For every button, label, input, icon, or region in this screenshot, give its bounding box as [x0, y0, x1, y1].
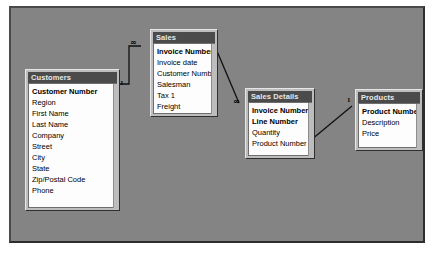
relationship-canvas[interactable]: 1 ∞ 1 ∞ ∞ 1 Customers Customer Number Re… [9, 6, 425, 243]
field-row[interactable]: Customer Number [157, 68, 211, 79]
field-row[interactable]: Product Number [252, 138, 308, 149]
table-fieldlist-sales-details[interactable]: Invoice Number Line Number Quantity Prod… [248, 102, 312, 156]
field-row[interactable]: Line Number [252, 116, 308, 127]
field-row[interactable]: Last Name [32, 119, 113, 130]
cardinality-salesdetails-many: ∞ [233, 98, 240, 106]
scrollbar-sales[interactable] [211, 44, 215, 114]
relationship-line-salesdetails-products [311, 106, 352, 140]
field-row[interactable]: First Name [32, 108, 113, 119]
scrollbar-sales-details[interactable] [308, 103, 312, 156]
table-fieldlist-products[interactable]: Product Number Description Price [358, 103, 420, 148]
table-title-sales-details[interactable]: Sales Details [248, 91, 312, 102]
cardinality-customers-one: 1 [120, 80, 124, 87]
relationships-window: 1 ∞ 1 ∞ ∞ 1 Customers Customer Number Re… [0, 0, 439, 273]
field-row[interactable]: Invoice date [157, 57, 211, 68]
field-row[interactable]: Phone [32, 185, 113, 196]
table-fieldlist-customers[interactable]: Customer Number Region First Name Last N… [28, 83, 117, 208]
field-row[interactable]: Product Number [362, 106, 416, 117]
field-row[interactable]: Price [362, 128, 416, 139]
field-row[interactable]: City [32, 152, 113, 163]
table-fieldlist-sales[interactable]: Invoice Number Invoice date Customer Num… [153, 43, 215, 114]
field-row[interactable]: Customer Number [32, 86, 113, 97]
field-row[interactable]: Company [32, 130, 113, 141]
field-row[interactable]: Salesman [157, 79, 211, 90]
table-window-products[interactable]: Products Product Number Description Pric… [355, 89, 423, 151]
field-row[interactable]: State [32, 163, 113, 174]
field-row[interactable]: Region [32, 97, 113, 108]
cardinality-products-one: 1 [347, 97, 351, 104]
field-row[interactable]: Tax 1 [157, 90, 211, 101]
field-row[interactable]: Invoice Number [157, 46, 211, 57]
table-window-sales[interactable]: Sales Invoice Number Invoice date Custom… [150, 29, 218, 117]
field-row[interactable]: Zip/Postal Code [32, 174, 113, 185]
table-title-sales[interactable]: Sales [153, 32, 215, 43]
scrollbar-products[interactable] [416, 104, 420, 148]
table-window-customers[interactable]: Customers Customer Number Region First N… [25, 69, 120, 211]
field-row[interactable]: Street [32, 141, 113, 152]
table-title-customers[interactable]: Customers [28, 72, 117, 83]
cardinality-sales-many: ∞ [130, 39, 137, 47]
field-row[interactable]: Description [362, 117, 416, 128]
scrollbar-customers[interactable] [113, 84, 117, 208]
table-window-sales-details[interactable]: Sales Details Invoice Number Line Number… [245, 88, 315, 159]
field-row[interactable]: Quantity [252, 127, 308, 138]
field-row[interactable]: Freight [157, 101, 211, 112]
table-title-products[interactable]: Products [358, 92, 420, 103]
field-row[interactable]: Invoice Number [252, 105, 308, 116]
